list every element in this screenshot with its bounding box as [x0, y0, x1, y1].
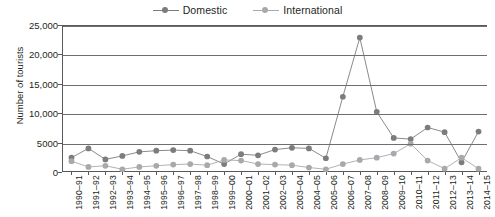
x-tick-label-2001-02: 2001–02	[261, 175, 271, 210]
legend-label-international: International	[283, 4, 342, 16]
x-tick-label-1998-99: 1998–99	[210, 175, 220, 210]
datapoint-international-2013-14	[459, 155, 465, 161]
datapoint-domestic-1995-96	[153, 148, 159, 154]
y-tick-label-0: 0	[0, 167, 58, 178]
y-tick-label-25000: 25,000	[0, 20, 58, 31]
x-tick-label-1991-92: 1991–92	[91, 175, 101, 210]
legend-dot-domestic	[162, 7, 168, 13]
legend-marker-domestic	[153, 6, 179, 15]
datapoint-international-1990-91	[69, 158, 75, 164]
x-tick-label-2011-12: 2011–12	[431, 175, 441, 209]
x-tick-2011-12	[428, 172, 429, 175]
x-tick-label-2006-07: 2006–07	[346, 175, 356, 210]
x-tick-2005-06	[326, 172, 327, 175]
datapoint-domestic-2000-01	[238, 151, 244, 157]
y-tick-label-5000: 5000	[0, 137, 58, 148]
gridline-25000	[63, 26, 487, 27]
datapoint-international-1994-95	[136, 164, 142, 170]
legend-label-domestic: Domestic	[183, 4, 228, 16]
legend-dot-international	[262, 7, 268, 13]
x-tick-label-1997-98: 1997–98	[193, 175, 203, 210]
gridline-15000	[63, 85, 487, 86]
datapoint-domestic-1991-92	[86, 146, 92, 152]
x-tick-1997-98	[190, 172, 191, 175]
y-tick-0	[58, 172, 62, 173]
datapoint-international-1991-92	[86, 164, 92, 170]
legend-item-domestic[interactable]: Domestic	[153, 4, 228, 16]
x-tick-1999-00	[224, 172, 225, 175]
x-tick-1994-95	[139, 172, 140, 175]
x-tick-2008-09	[377, 172, 378, 175]
x-tick-label-2000-01: 2000–01	[244, 175, 254, 210]
chart-legend: Domestic International	[0, 2, 495, 18]
gridline-10000	[63, 114, 487, 115]
datapoint-international-2006-07	[340, 161, 346, 167]
x-tick-2004-05	[309, 172, 310, 175]
datapoint-international-2008-09	[374, 155, 380, 161]
datapoint-international-2001-02	[255, 161, 261, 167]
datapoint-domestic-2011-12	[425, 125, 431, 131]
legend-item-international[interactable]: International	[253, 4, 342, 16]
x-tick-2006-07	[343, 172, 344, 175]
x-tick-label-1990-91: 1990–91	[74, 175, 84, 210]
tourist-line-chart: Domestic International Number of tourist…	[0, 0, 495, 217]
x-tick-label-2007-08: 2007–08	[363, 175, 373, 210]
x-tick-2014-15	[479, 172, 480, 175]
x-tick-label-2013-14: 2013–14	[465, 175, 475, 210]
y-tick-label-20000: 20,000	[0, 49, 58, 60]
x-tick-2000-01	[241, 172, 242, 175]
datapoint-international-1997-98	[187, 161, 193, 167]
x-tick-label-2010-11: 2010–11	[414, 175, 424, 209]
datapoint-domestic-1992-93	[103, 157, 109, 163]
x-tick-1992-93	[105, 172, 106, 175]
x-axis-labels: 1990–911991–921992–931993–941994–951995–…	[62, 175, 487, 217]
x-tick-label-1995-96: 1995–96	[159, 175, 169, 210]
gridline-20000	[63, 55, 487, 56]
x-tick-label-2012-13: 2012–13	[448, 175, 458, 210]
datapoint-domestic-1993-94	[119, 153, 125, 159]
datapoint-international-1995-96	[153, 163, 159, 169]
datapoint-international-2004-05	[306, 165, 312, 171]
datapoint-domestic-1996-97	[170, 147, 176, 153]
datapoint-domestic-2002-03	[272, 147, 278, 153]
x-tick-label-2009-10: 2009–10	[397, 175, 407, 210]
x-tick-1995-96	[156, 172, 157, 175]
datapoint-domestic-2004-05	[306, 146, 312, 152]
datapoint-domestic-2007-08	[357, 35, 363, 41]
x-tick-2007-08	[360, 172, 361, 175]
x-tick-2010-11	[411, 172, 412, 175]
gridline-5000	[63, 144, 487, 145]
legend-marker-international	[253, 6, 279, 15]
x-tick-label-1996-97: 1996–97	[176, 175, 186, 210]
plot-area	[62, 25, 487, 172]
y-axis-labels: 0500010,00015,00020,00025,000	[0, 0, 58, 217]
y-tick-label-15000: 15,000	[0, 78, 58, 89]
datapoint-international-2009-10	[391, 151, 397, 157]
x-tick-label-1992-93: 1992–93	[108, 175, 118, 210]
x-tick-label-2002-03: 2002–03	[278, 175, 288, 210]
datapoint-domestic-2006-07	[340, 94, 346, 100]
datapoint-international-2014-15	[476, 166, 482, 172]
y-tick-label-10000: 10,000	[0, 108, 58, 119]
datapoint-domestic-1994-95	[136, 149, 142, 155]
datapoint-international-2003-04	[289, 162, 295, 168]
x-tick-label-2003-04: 2003–04	[295, 175, 305, 210]
datapoint-international-1999-00	[221, 157, 227, 163]
datapoint-domestic-2005-06	[323, 155, 329, 161]
datapoint-domestic-1997-98	[187, 148, 193, 154]
datapoint-domestic-2012-13	[442, 129, 448, 135]
x-tick-label-2005-06: 2005–06	[329, 175, 339, 210]
x-tick-2012-13	[445, 172, 446, 175]
x-tick-2001-02	[258, 172, 259, 175]
datapoint-international-1992-93	[103, 163, 109, 169]
x-tick-1990-91	[71, 172, 72, 175]
x-tick-1991-92	[88, 172, 89, 175]
x-tick-label-2014-15: 2014–15	[482, 175, 492, 210]
x-tick-label-1994-95: 1994–95	[142, 175, 152, 210]
datapoint-international-2007-08	[357, 157, 363, 163]
datapoint-domestic-2001-02	[255, 152, 261, 158]
datapoint-international-2000-01	[238, 158, 244, 164]
x-tick-label-1999-00: 1999–00	[227, 175, 237, 210]
series-line-domestic	[71, 38, 478, 164]
datapoint-international-1998-99	[204, 162, 210, 168]
